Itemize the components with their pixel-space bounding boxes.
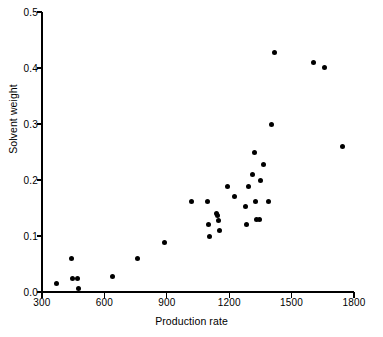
y-tick-label: 0.1 — [23, 231, 38, 242]
data-point — [340, 144, 345, 149]
data-point — [261, 162, 266, 167]
data-point — [272, 50, 277, 55]
data-point — [253, 199, 258, 204]
data-point — [69, 256, 74, 261]
y-tick-label: 0.3 — [23, 119, 38, 130]
data-point — [217, 228, 222, 233]
x-tick-label: 300 — [33, 297, 50, 308]
y-tick-label: 0.4 — [23, 63, 38, 74]
data-point — [311, 60, 316, 65]
x-tick-label: 600 — [96, 297, 113, 308]
data-point — [322, 65, 327, 70]
data-point — [250, 172, 255, 177]
data-point — [76, 286, 81, 291]
data-point — [54, 281, 59, 286]
data-point — [257, 217, 262, 222]
data-point — [110, 274, 115, 279]
data-point — [243, 204, 248, 209]
plot-area — [42, 12, 354, 292]
data-point — [232, 194, 237, 199]
data-point — [252, 150, 257, 155]
data-point — [244, 222, 249, 227]
data-point — [266, 199, 271, 204]
x-tick-label: 1500 — [280, 297, 303, 308]
scatter-plot-figure: 0.00.10.20.30.40.5 300600900120015001800… — [0, 0, 383, 337]
y-axis-title: Solvent weight — [7, 84, 19, 154]
data-point — [206, 222, 211, 227]
data-point — [75, 276, 80, 281]
data-point — [135, 256, 140, 261]
data-point — [225, 184, 230, 189]
data-point — [70, 276, 75, 281]
x-tick-label: 900 — [158, 297, 175, 308]
y-tick-label: 0.2 — [23, 175, 38, 186]
data-point — [189, 199, 194, 204]
x-tick-label: 1800 — [342, 297, 365, 308]
x-tick-label-group: 300600900120015001800 — [0, 297, 383, 313]
x-tick-label: 1200 — [218, 297, 241, 308]
data-point — [258, 178, 263, 183]
y-tick-label: 0.5 — [23, 7, 38, 18]
data-point — [216, 218, 221, 223]
data-point — [207, 234, 212, 239]
data-point — [205, 199, 210, 204]
x-axis-title: Production rate — [0, 315, 383, 327]
y-tick-label: 0.0 — [23, 287, 38, 298]
data-point — [246, 184, 251, 189]
y-axis-title-wrapper: Solvent weight — [3, 44, 21, 194]
data-point — [269, 122, 274, 127]
data-point — [162, 240, 167, 245]
